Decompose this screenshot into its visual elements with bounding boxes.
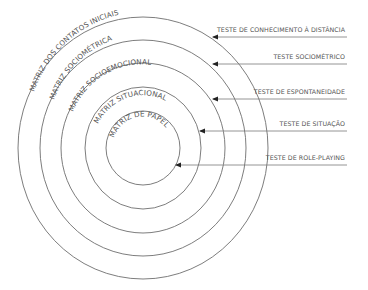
ring-labels: MATRIZ DOS CONTATOS INICIAIS MATRIZ SOCI… (27, 8, 171, 139)
matrix-diagram: MATRIZ DOS CONTATOS INICIAIS MATRIZ SOCI… (0, 0, 368, 290)
test-arrow-sociometrico: TESTE SOCIOMÉTRICO (212, 53, 347, 67)
arrow-head-icon (212, 97, 218, 102)
test-label-sociometrico: TESTE SOCIOMÉTRICO (272, 53, 345, 60)
arrow-head-icon (199, 129, 205, 134)
test-arrow-conhecimento: TESTE DE CONHECIMENTO À DISTÂNCIA (212, 26, 347, 40)
arrow-head-icon (212, 35, 218, 40)
test-label-conhecimento-distancia: TESTE DE CONHECIMENTO À DISTÂNCIA (216, 26, 346, 33)
ring-situacional (85, 87, 201, 209)
test-label-espontaneidade: TESTE DE ESPONTANEIDADE (253, 88, 345, 95)
ring-label-papel: MATRIZ DE PAPEL (107, 109, 171, 138)
test-label-situacao: TESTE DE SITUAÇÃO (279, 120, 345, 128)
arrow-head-icon (175, 163, 181, 168)
arrow-head-icon (212, 62, 218, 67)
ring-label-contatos-iniciais: MATRIZ DOS CONTATOS INICIAIS (27, 8, 119, 93)
test-label-role-playing: TESTE DE ROLE-PLAYING (265, 154, 345, 161)
